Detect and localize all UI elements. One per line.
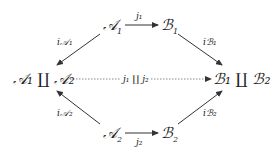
label-j1: j₁ <box>136 12 142 21</box>
node-b2: ℬ2 <box>161 126 178 144</box>
label-j1-coprod-j2: j₁ ∐ j₂ <box>121 75 151 84</box>
node-b1: ℬ1 <box>161 18 178 36</box>
node-a1: 𝒜1 <box>103 18 122 36</box>
label-iA1: i𝒜₁ <box>57 38 73 47</box>
label-iB2: iℬ₂ <box>203 109 217 118</box>
node-a2: 𝒜2 <box>103 126 122 144</box>
node-coprod-a: 𝒜₁ ∐ 𝒜₂ <box>13 72 75 87</box>
node-coprod-b: ℬ₁ ∐ ℬ₂ <box>213 72 271 87</box>
label-j2: j₂ <box>136 138 142 147</box>
label-iA2: i𝒜₂ <box>57 109 73 118</box>
label-iB1: iℬ₁ <box>203 38 217 47</box>
